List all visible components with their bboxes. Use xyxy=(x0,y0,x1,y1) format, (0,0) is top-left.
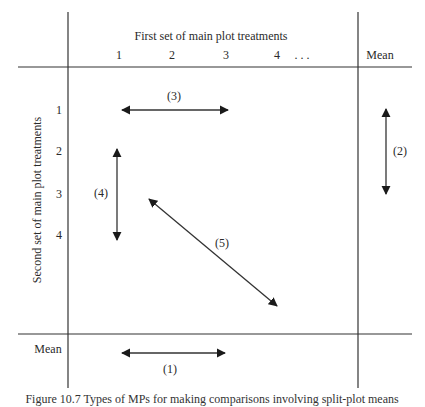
column-label-4: 4 xyxy=(274,48,280,62)
column-label-3: 3 xyxy=(223,48,229,62)
comparison-label-1: (1) xyxy=(163,362,177,376)
row-label-3: 3 xyxy=(56,187,62,201)
comparison-label-5: (5) xyxy=(215,236,229,250)
column-axis-title: First set of main plot treatments xyxy=(135,29,288,43)
row-label-1: 1 xyxy=(56,103,62,117)
comparison-label-2: (2) xyxy=(393,144,407,158)
figure-caption: Figure 10.7 Types of MPs for making comp… xyxy=(25,392,398,407)
column-label-ellipsis: . . . xyxy=(295,48,310,62)
row-label-2: 2 xyxy=(56,144,62,158)
arrow-comparison-5 xyxy=(149,199,277,306)
comparison-label-3: (3) xyxy=(167,89,181,103)
mean-row-label: Mean xyxy=(34,342,61,356)
comparison-label-4: (4) xyxy=(94,186,108,200)
column-label-2: 2 xyxy=(169,48,175,62)
column-label-1: 1 xyxy=(116,48,122,62)
row-label-4: 4 xyxy=(56,228,62,242)
row-axis-title: Second set of main plot treatments xyxy=(30,117,45,283)
mean-column-label: Mean xyxy=(366,48,393,62)
